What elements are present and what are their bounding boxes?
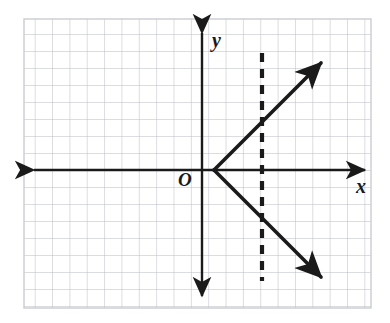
x-axis-label: x [355,175,366,197]
graph-paper-grid [24,19,371,308]
y-axis-label: y [210,29,221,52]
graph-figure: O y x [0,0,390,323]
origin-label: O [178,169,192,190]
coordinate-plane-svg: O y x [0,0,390,323]
